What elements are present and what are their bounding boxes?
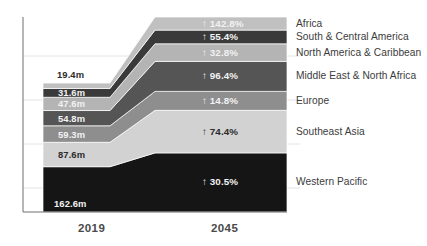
growth-label-2045: ↑ 14.8% — [202, 96, 238, 106]
value-label-2019: 87.6m — [58, 150, 85, 159]
legend-item-southeast-asia: Southeast Asia — [296, 127, 365, 137]
stacked-stream-chart: 162.6m87.6m59.3m54.8m47.6m31.6m19.4m ↑ 3… — [0, 0, 427, 246]
legend-item-africa: Africa — [296, 19, 322, 29]
x-tick-2045: 2045 — [211, 222, 238, 234]
value-label-2019: 59.3m — [58, 130, 85, 139]
legend-item-western-pacific: Western Pacific — [296, 177, 367, 187]
growth-label-2045: ↑ 30.5% — [202, 177, 238, 187]
value-label-2019: 31.6m — [58, 88, 85, 97]
growth-label-2045: ↑ 142.8% — [202, 19, 244, 29]
value-label-2019: 47.6m — [58, 99, 85, 108]
legend-item-south-central-america: South & Central America — [296, 32, 409, 42]
growth-label-2045: ↑ 55.4% — [202, 32, 238, 42]
value-label-2019: 54.8m — [58, 114, 85, 123]
growth-label-2045: ↑ 32.8% — [202, 48, 238, 58]
growth-label-2045: ↑ 74.4% — [202, 127, 238, 137]
growth-label-2045: ↑ 96.4% — [202, 71, 238, 81]
legend-item-middle-east-north-africa: Middle East & North Africa — [296, 71, 416, 81]
legend-item-north-america-caribbean: North America & Caribbean — [296, 48, 421, 58]
x-tick-2019: 2019 — [78, 222, 105, 234]
value-label-2019: 19.4m — [57, 70, 84, 79]
legend-item-europe: Europe — [296, 96, 329, 106]
value-label-2019: 162.6m — [54, 199, 86, 208]
